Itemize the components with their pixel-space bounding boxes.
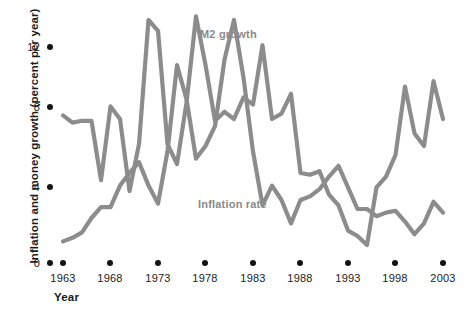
chart-figure: Inflation and money growth (percent per … xyxy=(0,0,476,318)
plot-area xyxy=(0,0,476,318)
